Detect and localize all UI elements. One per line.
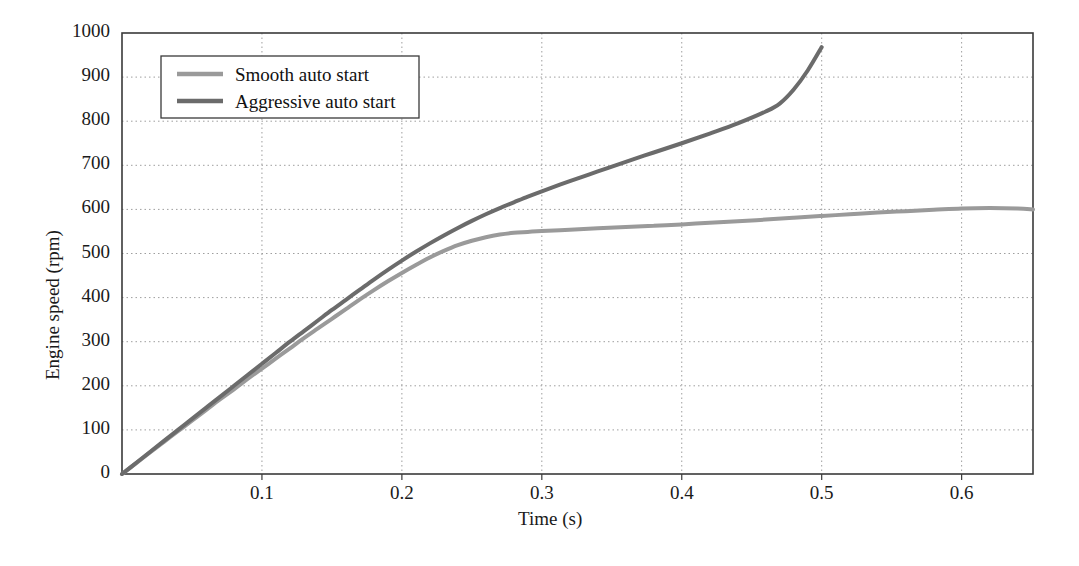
chart-figure: Engine speed (rpm) Time (s) 010020030040…	[0, 0, 1079, 566]
plot-area: Smooth auto startAggressive auto start	[0, 0, 1079, 566]
legend-label-2: Aggressive auto start	[235, 91, 396, 112]
series-line-1	[122, 208, 1033, 474]
legend-label-1: Smooth auto start	[235, 64, 370, 85]
chart-legend: Smooth auto startAggressive auto start	[161, 56, 419, 118]
